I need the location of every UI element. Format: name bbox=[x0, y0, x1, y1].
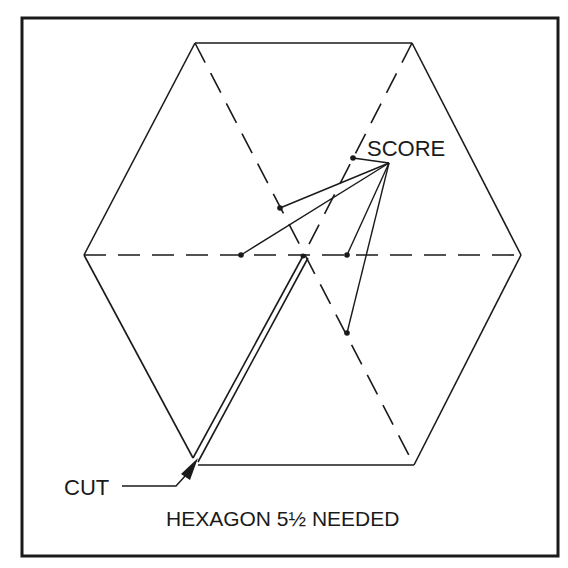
cut-leader bbox=[122, 458, 198, 486]
cut-lines bbox=[193, 256, 308, 462]
diagram-canvas: SCORE CUT HEXAGON 5½ NEEDED bbox=[0, 0, 568, 568]
cut-label: CUT bbox=[64, 475, 109, 500]
caption: HEXAGON 5½ NEEDED bbox=[166, 507, 399, 530]
score-leaders bbox=[241, 158, 389, 333]
score-label: SCORE bbox=[367, 136, 445, 161]
